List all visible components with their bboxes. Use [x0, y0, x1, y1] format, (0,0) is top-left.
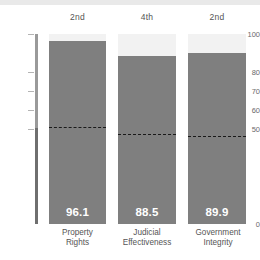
- category-label-government-integrity: Government Integrity: [182, 228, 254, 248]
- bar-chart: 2nd 4th 2nd 100 80 70 60 50 0 96.1 88.5: [0, 0, 260, 260]
- bar-value-government-integrity: 89.9: [188, 206, 246, 218]
- bar-group-government-integrity: 89.9: [188, 34, 246, 224]
- bar-group-property-rights: 96.1: [49, 34, 106, 224]
- category-label-line-2: Effectiveness: [112, 238, 182, 248]
- category-label-line-1: Judicial: [112, 228, 182, 238]
- bar-value-judicial-effectiveness: 88.5: [118, 206, 176, 218]
- category-label-line-2: Integrity: [182, 238, 254, 248]
- category-label-line-1: Property: [49, 228, 106, 238]
- bar-property-rights[interactable]: 96.1: [49, 41, 106, 224]
- bar-government-integrity[interactable]: 89.9: [188, 53, 246, 224]
- plot-area: 96.1 88.5 89.9: [0, 0, 260, 260]
- category-label-line-1: Government: [182, 228, 254, 238]
- reference-line-government-integrity: [188, 136, 246, 137]
- category-label-judicial-effectiveness: Judicial Effectiveness: [112, 228, 182, 248]
- reference-line-property-rights: [49, 127, 106, 128]
- bar-group-judicial-effectiveness: 88.5: [118, 34, 176, 224]
- category-label-line-2: Rights: [49, 238, 106, 248]
- bar-judicial-effectiveness[interactable]: 88.5: [118, 56, 176, 224]
- bar-value-property-rights: 96.1: [49, 206, 106, 218]
- category-label-property-rights: Property Rights: [49, 228, 106, 248]
- reference-line-judicial-effectiveness: [118, 134, 176, 135]
